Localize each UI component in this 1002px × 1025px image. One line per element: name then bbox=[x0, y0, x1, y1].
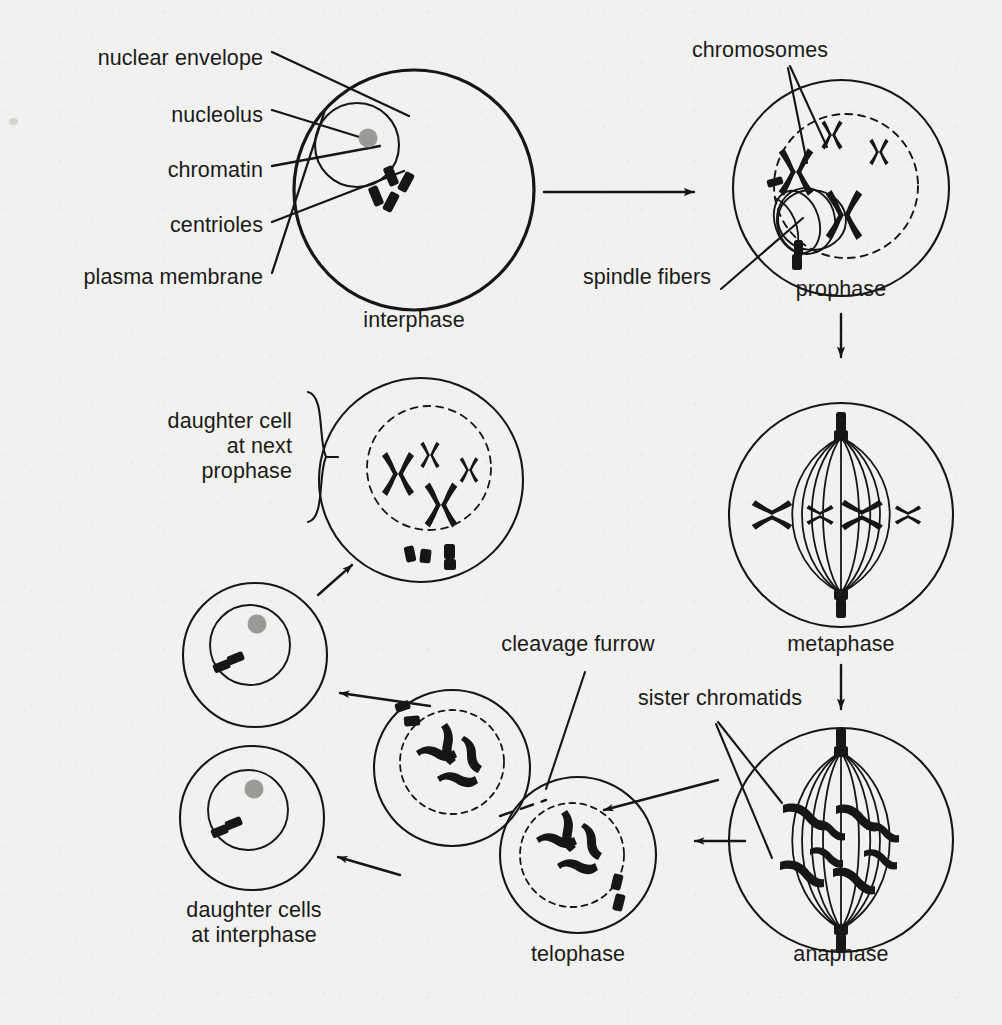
nuclear-envelope-daughter-upper bbox=[210, 605, 290, 685]
label-chromatin: chromatin bbox=[0, 158, 263, 183]
label-nucleolus: nucleolus bbox=[0, 103, 263, 128]
label-sister-chromatids: sister chromatids bbox=[620, 686, 820, 711]
cleavage-furrow-leader-line bbox=[546, 672, 585, 789]
label-daughter-cells-interphase: daughter cells at interphase bbox=[104, 898, 404, 948]
chromatids-telophase-upper bbox=[394, 700, 482, 787]
label-stage-telophase: telophase bbox=[478, 942, 678, 967]
chromatids-telophase-lower bbox=[536, 810, 626, 912]
nuclear-envelope-telophase-lower bbox=[520, 803, 624, 907]
plasma-membrane-daughter-lower bbox=[180, 746, 324, 890]
chromosome-leader-lines bbox=[788, 66, 827, 163]
arrow-anaphase-to-telophase-upper bbox=[604, 780, 718, 810]
nucleolus-interphase bbox=[359, 129, 378, 148]
cell-prophase bbox=[733, 80, 949, 296]
label-stage-metaphase: metaphase bbox=[741, 632, 941, 657]
arrow-telophase-to-daughter-lower bbox=[338, 857, 400, 875]
label-stage-interphase: interphase bbox=[314, 308, 514, 333]
plasma-membrane-prophase bbox=[733, 80, 949, 296]
label-centrioles: centrioles bbox=[0, 213, 263, 238]
nucleolus-daughter-upper bbox=[248, 615, 267, 634]
nuclear-envelope-prophase bbox=[774, 114, 918, 258]
sister-chromatids-leader-lines bbox=[716, 722, 782, 858]
chromosomes-metaphase bbox=[752, 500, 921, 530]
label-stage-prophase: prophase bbox=[741, 277, 941, 302]
brace-next-prophase bbox=[308, 392, 338, 522]
centrioles-daughter-lower bbox=[210, 816, 243, 839]
label-chromosomes: chromosomes bbox=[610, 38, 910, 63]
cell-daughter-upper bbox=[183, 583, 327, 727]
centrioles-next-prophase bbox=[403, 544, 456, 570]
centrioles-daughter-upper bbox=[212, 651, 245, 674]
paper-speck bbox=[9, 118, 18, 125]
centrioles-interphase bbox=[368, 165, 415, 213]
label-nuclear-envelope: nuclear envelope bbox=[0, 46, 263, 71]
callout-leader-lines bbox=[272, 52, 409, 273]
label-cleavage-furrow: cleavage furrow bbox=[478, 632, 678, 657]
nucleolus-daughter-lower bbox=[245, 780, 264, 799]
plasma-membrane-telophase-lower bbox=[500, 777, 656, 933]
cell-daughter-lower bbox=[180, 746, 324, 890]
chromosomes-next-prophase bbox=[382, 442, 478, 528]
label-daughter-cell-next-prophase: daughter cell at next prophase bbox=[22, 409, 292, 484]
cell-telophase-lower bbox=[500, 777, 656, 933]
label-spindle-fibers: spindle fibers bbox=[451, 265, 711, 290]
mitosis-diagram-canvas: nuclear envelope nucleolus chromatin cen… bbox=[0, 0, 1002, 1025]
label-plasma-membrane: plasma membrane bbox=[0, 265, 263, 290]
arrow-daughter-to-next-prophase bbox=[318, 565, 352, 595]
label-stage-anaphase: anaphase bbox=[741, 942, 941, 967]
spindle-fibers-metaphase bbox=[792, 437, 890, 593]
mitosis-diagram-svg bbox=[0, 0, 1002, 1025]
